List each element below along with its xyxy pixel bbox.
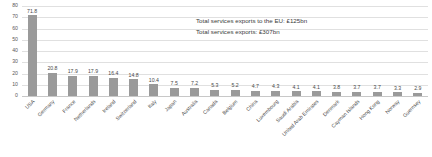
bar-slot: 17.9	[83, 6, 103, 96]
y-axis-tick: 40	[12, 48, 18, 53]
x-label-slot: Netherlands	[83, 97, 103, 155]
x-axis-tick-label: France	[61, 99, 76, 114]
bar-value-label: 10.4	[149, 78, 159, 83]
annotation-text: Total services exports to the EU: £125bn	[196, 16, 426, 27]
y-axis-tick: 30	[12, 60, 18, 65]
bar[interactable]	[231, 90, 240, 96]
bar-value-label: 20.8	[47, 66, 57, 71]
bar[interactable]	[292, 91, 301, 96]
annotation-block: Total services exports to the EU: £125bn…	[196, 16, 426, 38]
y-axis-tick: 10	[12, 82, 18, 87]
bar[interactable]	[373, 92, 382, 96]
x-axis-tick-label: Ireland	[102, 99, 117, 114]
bar-value-label: 14.8	[129, 73, 139, 78]
x-label-slot: Luxembourg	[266, 97, 286, 155]
x-label-slot: Germany	[42, 97, 62, 155]
bar[interactable]	[170, 88, 179, 96]
x-label-slot: Australia	[184, 97, 204, 155]
bar[interactable]	[190, 88, 199, 96]
x-label-slot: Cayman Islands	[347, 97, 367, 155]
annotation-text: Total services exports: £307bn	[196, 27, 426, 38]
bar-slot: 16.4	[103, 6, 123, 96]
bar-value-label: 3.7	[374, 85, 381, 90]
bar[interactable]	[413, 93, 422, 96]
bar[interactable]	[210, 90, 219, 96]
bar-slot: 10.4	[144, 6, 164, 96]
bar[interactable]	[28, 15, 37, 96]
y-axis: 01020304050607080	[0, 6, 20, 96]
bar-value-label: 7.5	[171, 81, 178, 86]
x-label-slot: Italy	[144, 97, 164, 155]
bar-slot: 7.5	[164, 6, 184, 96]
x-label-slot: France	[63, 97, 83, 155]
x-label-slot: Hong Kong	[367, 97, 387, 155]
services-exports-bar-chart: 01020304050607080 71.820.817.917.916.414…	[0, 0, 432, 157]
bar-value-label: 16.4	[108, 71, 118, 76]
x-axis-tick-label: Japan	[164, 99, 178, 113]
x-axis-tick-label: Italy	[147, 99, 157, 109]
x-label-slot: Canada	[205, 97, 225, 155]
x-label-slot: China	[245, 97, 265, 155]
bar-value-label: 71.8	[27, 9, 37, 14]
x-label-slot: Guernsey	[408, 97, 428, 155]
y-axis-tick: 80	[12, 3, 18, 8]
bar[interactable]	[352, 92, 361, 96]
bar-value-label: 4.1	[292, 85, 299, 90]
bar-value-label: 5.3	[211, 83, 218, 88]
y-axis-tick: 20	[12, 71, 18, 76]
bar-value-label: 7.2	[191, 81, 198, 86]
bar[interactable]	[312, 91, 321, 96]
x-axis-tick-label: USA	[25, 99, 36, 110]
bar[interactable]	[48, 73, 57, 96]
bar-value-label: 2.9	[414, 86, 421, 91]
y-axis-tick: 70	[12, 15, 18, 20]
bar[interactable]	[393, 92, 402, 96]
bar-value-label: 5.2	[232, 83, 239, 88]
bar-value-label: 17.9	[68, 69, 78, 74]
x-axis-tick-label: Belgium	[222, 99, 239, 116]
bar[interactable]	[68, 76, 77, 96]
bar-slot: 20.8	[42, 6, 62, 96]
x-axis-labels: USAGermanyFranceNetherlandsIrelandSwitze…	[22, 97, 428, 155]
x-axis-tick-label: Canada	[202, 99, 219, 116]
bar-value-label: 4.7	[252, 84, 259, 89]
bar[interactable]	[251, 91, 260, 96]
bar[interactable]	[149, 84, 158, 96]
bar[interactable]	[129, 79, 138, 96]
x-axis-tick-label: Norway	[385, 99, 401, 115]
x-label-slot: Switzerland	[123, 97, 143, 155]
bar-value-label: 3.3	[394, 86, 401, 91]
x-axis-tick-label: China	[246, 99, 259, 112]
bar[interactable]	[109, 78, 118, 96]
bar-slot: 71.8	[22, 6, 42, 96]
x-label-slot: Norway	[387, 97, 407, 155]
y-axis-tick: 0	[15, 93, 18, 98]
x-label-slot: Japan	[164, 97, 184, 155]
bar-slot: 14.8	[123, 6, 143, 96]
bar-slot: 17.9	[63, 6, 83, 96]
bar-value-label: 4.3	[272, 84, 279, 89]
x-label-slot: USA	[22, 97, 42, 155]
x-label-slot: Belgium	[225, 97, 245, 155]
y-axis-tick: 50	[12, 37, 18, 42]
y-axis-tick: 60	[12, 26, 18, 31]
x-label-slot: United Arab Emirates	[306, 97, 326, 155]
bar[interactable]	[271, 91, 280, 96]
x-label-slot: Ireland	[103, 97, 123, 155]
bar-value-label: 3.8	[333, 85, 340, 90]
bar-value-label: 4.1	[313, 85, 320, 90]
bar[interactable]	[89, 76, 98, 96]
bar-value-label: 17.9	[88, 69, 98, 74]
bar[interactable]	[332, 92, 341, 96]
bar-value-label: 3.7	[353, 85, 360, 90]
